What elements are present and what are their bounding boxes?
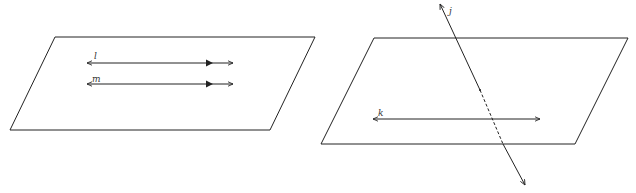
diagram-canvas: l m k j [0,0,636,193]
parallel-mark-l-icon [206,60,213,67]
line-l: l [87,51,233,67]
line-k: k [373,108,540,119]
label-j: j [447,6,452,16]
figure-parallel-lines: l m [10,37,315,130]
line-j: j [440,4,525,185]
label-l: l [94,51,97,61]
plane-right [321,38,628,144]
label-m: m [92,74,101,84]
label-k: k [378,108,383,118]
parallel-mark-m-icon [206,81,213,88]
line-m: m [87,74,233,88]
figure-intersecting-line: k j [321,4,628,185]
intersection-point [479,89,481,91]
